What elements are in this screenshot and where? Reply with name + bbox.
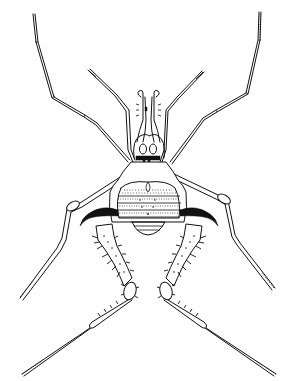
leg-second-right [160, 71, 204, 162]
scutum [109, 162, 186, 235]
leg-front-left [33, 14, 130, 162]
harvestman-illustration [0, 0, 299, 381]
leg-hind-right [157, 224, 276, 376]
leg-hind-left [22, 224, 139, 376]
pedipalps [136, 90, 161, 142]
leg-front-right [170, 12, 261, 164]
leg-second-left [88, 69, 135, 162]
